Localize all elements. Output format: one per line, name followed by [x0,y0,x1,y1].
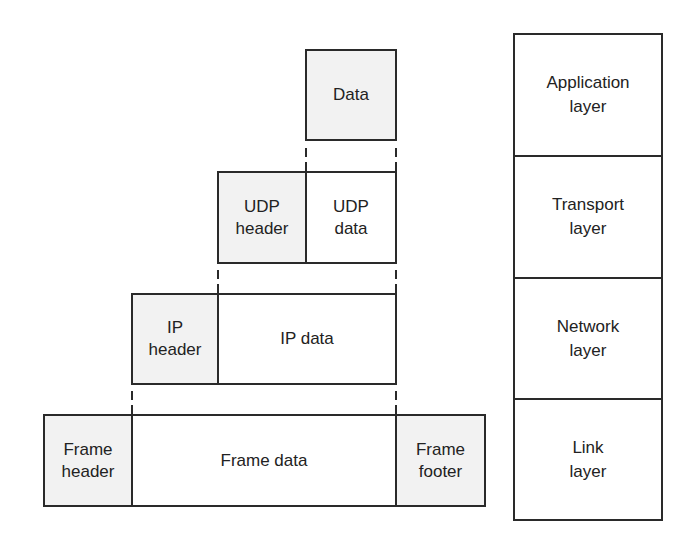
link-layer-box: Link layer [513,398,663,521]
udp-data-box: UDP data [305,171,397,264]
connector-tick [395,391,397,400]
ip-data-box: IP data [217,293,397,385]
connector-tick [217,270,219,279]
frame-header-box: Frame header [43,414,133,507]
connector-tick [395,148,397,157]
ip-header-box: IP header [131,293,219,385]
frame-data-box: Frame data [131,414,397,507]
application-layer-box: Application layer [513,33,663,157]
udp-header-box: UDP header [217,171,307,264]
frame-footer-box: Frame footer [395,414,486,507]
connector-tick [395,270,397,279]
transport-layer-box: Transport layer [513,155,663,279]
connector-tick [305,148,307,157]
connector-tick [131,391,133,400]
application-data-box: Data [305,49,397,141]
network-layer-box: Network layer [513,277,663,400]
